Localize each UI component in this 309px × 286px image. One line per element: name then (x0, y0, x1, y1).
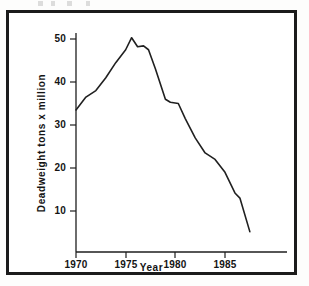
y-tick-label-10: 10 (54, 205, 66, 216)
cutoff-caption-remnant (34, 1, 154, 6)
y-tick-label-30: 30 (54, 119, 66, 130)
data-series-line (76, 38, 250, 232)
figure-container: 50 40 30 20 10 1970 1975 1980 1985 Deadw… (0, 0, 309, 286)
y-tick-label-40: 40 (54, 76, 66, 87)
chart-frame: 50 40 30 20 10 1970 1975 1980 1985 Deadw… (6, 10, 297, 275)
y-axis-ticks (70, 39, 76, 211)
y-tick-label-20: 20 (54, 162, 66, 173)
line-chart-plot: 50 40 30 20 10 1970 1975 1980 1985 Deadw… (9, 13, 294, 272)
y-tick-label-50: 50 (54, 33, 66, 44)
y-axis-title: Deadweight tons x million (36, 74, 47, 212)
x-axis-title: Year (140, 262, 164, 273)
